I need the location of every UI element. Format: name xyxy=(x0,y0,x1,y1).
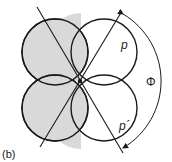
center-point xyxy=(78,79,82,83)
label-phi: Φ xyxy=(146,75,156,89)
panel-label: (b) xyxy=(2,148,15,160)
lobe-diagram: p p´ Φ (b) xyxy=(0,0,172,162)
diagram-canvas: p p´ Φ (b) xyxy=(0,0,172,162)
label-p-prime: p´ xyxy=(118,119,130,133)
label-p: p xyxy=(120,38,128,52)
